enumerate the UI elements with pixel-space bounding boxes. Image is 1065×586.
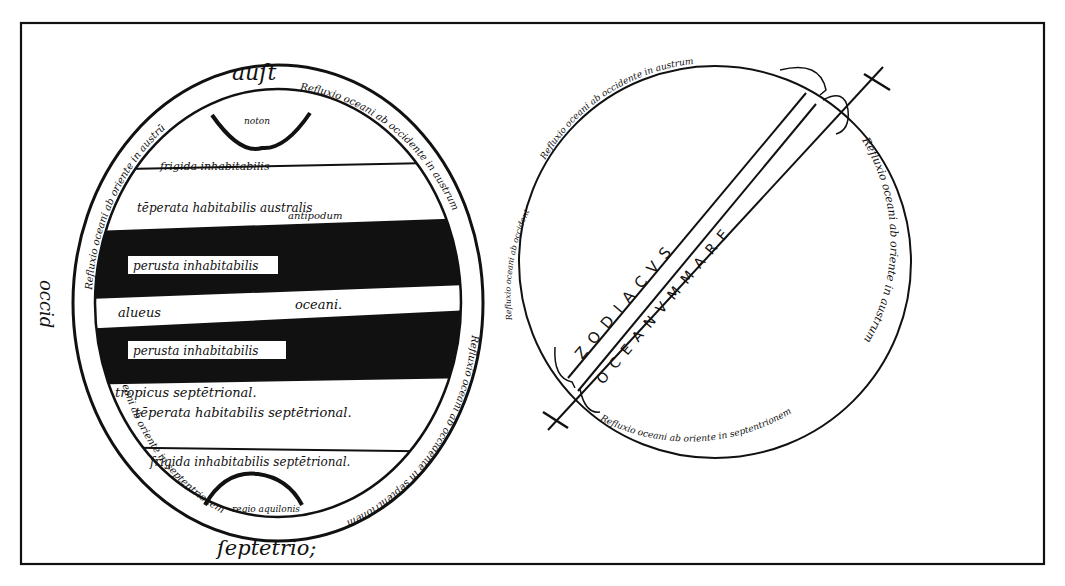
zone-label-channel-right: oceani. [295, 297, 342, 312]
loop-bottom-left [555, 347, 575, 388]
label-west: occid [36, 280, 57, 328]
label-north-cap: regio aquilonis [232, 504, 300, 514]
zone-label-antipodes: antipodum [288, 210, 342, 221]
zone-label-frigid-south: frigida inhabitabilis [159, 160, 270, 173]
zone-label-torrid-south: perusta inhabitabilis [133, 259, 259, 273]
inner-ring [95, 89, 461, 517]
ring-text-upper-right: Refluxio oceani ab occidente in austrum [299, 81, 462, 212]
manuscript-figure: auſt ſeptētrio; occid noton regio aquilo… [0, 0, 1065, 586]
zone-label-frigid-north: frigida inhabitabilis septētrional. [149, 455, 350, 469]
label-south-cap: noton [244, 116, 270, 126]
zone-line-north-frigid [80, 447, 480, 452]
left-zonal-diagram: auſt ſeptētrio; occid noton regio aquilo… [36, 60, 483, 560]
zone-label-temperate-north: tēperata habitabilis septētrional. [135, 405, 352, 420]
zone-label-channel-left: alueus [118, 305, 161, 320]
label-north: ſeptētrio; [215, 536, 316, 560]
north-polar-cap [205, 474, 302, 505]
cross-icon-bottom [543, 412, 568, 428]
label-south: auſt [232, 60, 276, 85]
band-line-lower [578, 104, 816, 391]
zone-label-torrid-north: perusta inhabitabilis [133, 344, 259, 358]
earth-circle [519, 66, 911, 458]
loop-top-left [780, 68, 826, 96]
zone-label-tropic-north: tropicus septētrional. [115, 385, 257, 400]
zone-label-temperate-south: tēperata habitabilis australis [137, 201, 313, 215]
ring-text-right: Refluxio oceani ab oriente in austrum [859, 134, 901, 345]
